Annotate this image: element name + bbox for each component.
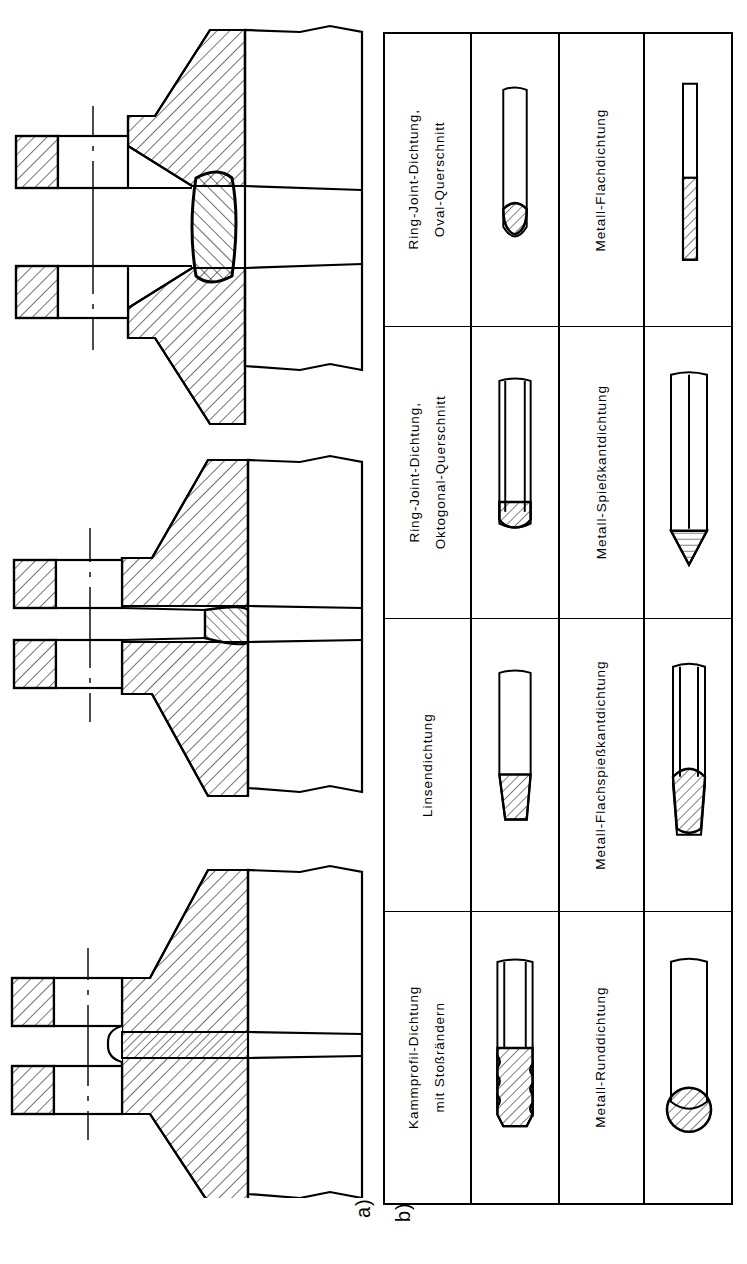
gasket-label-line1: Linsendichtung [419, 713, 434, 816]
gasket-label-line1: Kammprofil-Dichtung [406, 986, 421, 1129]
pointed-edge-gasket-shape [645, 327, 733, 619]
table-column-shapes-left [645, 34, 733, 1203]
gasket-label: Metall-Runddichtung [588, 987, 614, 1128]
gasket-label-line1: Ring-Joint-Dichtung, [406, 110, 421, 250]
gasket-label: Metall-Flachspießkantdichtung [588, 660, 614, 869]
gasket-label-line2: Oval-Querschnitt [428, 110, 454, 250]
table-column-labels-right: Ring-Joint-Dichtung, Oval-Querschnitt Ri… [385, 34, 472, 1203]
table-cell-shape [645, 619, 733, 912]
gasket-label-line1: Metall-Flachdichtung [593, 108, 608, 251]
lens-gasket-shape [472, 619, 558, 911]
table-cell-shape [472, 912, 558, 1204]
technical-figure: Ring-Joint-Dichtung, Oval-Querschnitt Ri… [0, 0, 747, 1264]
part-b-gasket-table: Ring-Joint-Dichtung, Oval-Querschnitt Ri… [383, 32, 733, 1205]
table-cell-label: Metall-Flachdichtung [560, 34, 643, 327]
gasket-label-line1: Metall-Runddichtung [593, 987, 608, 1128]
table-cell-label: Kammprofil-Dichtung mit Stoßrändern [385, 912, 470, 1204]
gasket-label: Ring-Joint-Dichtung, Oktogonal-Querschni… [401, 395, 454, 549]
table-cell-shape [645, 912, 733, 1204]
flat-pointed-edge-gasket-shape [645, 619, 733, 911]
gasket-label: Linsendichtung [414, 713, 440, 816]
table-cell-label: Ring-Joint-Dichtung, Oktogonal-Querschni… [385, 327, 470, 620]
table-cell-label: Ring-Joint-Dichtung, Oval-Querschnitt [385, 34, 470, 327]
gasket-label-line2: Oktogonal-Querschnitt [428, 395, 454, 549]
table-cell-shape [472, 619, 558, 912]
table-cell-shape [645, 34, 733, 327]
gasket-label: Kammprofil-Dichtung mit Stoßrändern [401, 986, 454, 1129]
table-cell-shape [645, 327, 733, 620]
kammprofil-gasket-shape [472, 912, 558, 1204]
gasket-label: Ring-Joint-Dichtung, Oval-Querschnitt [401, 110, 454, 250]
table-cell-shape [472, 34, 558, 327]
table-cell-label: Metall-Spießkantdichtung [560, 327, 643, 620]
flange-flat-gasket-drawing [0, 818, 372, 1198]
gasket-label-line2: mit Stoßrändern [428, 986, 454, 1129]
table-cell-label: Metall-Runddichtung [560, 912, 643, 1204]
table-column-shapes-right [472, 34, 560, 1203]
gasket-label-line1: Ring-Joint-Dichtung, [406, 402, 421, 542]
table-cell-shape [472, 327, 558, 620]
gasket-label: Metall-Spießkantdichtung [588, 385, 614, 559]
caption-part-a: a) [352, 1198, 375, 1218]
gasket-label: Metall-Flachdichtung [588, 108, 614, 251]
octagonal-ring-joint-gasket-shape [472, 327, 558, 619]
table-cell-label: Linsendichtung [385, 619, 470, 912]
flat-strip-gasket-shape [645, 34, 733, 326]
flange-lens-gasket-drawing [0, 430, 372, 822]
oval-ring-joint-gasket-shape [472, 34, 558, 326]
round-gasket-shape [645, 912, 733, 1204]
table-cell-label: Metall-Flachspießkantdichtung [560, 619, 643, 912]
flange-ring-joint-oval-drawing [0, 18, 372, 436]
gasket-label-line1: Metall-Spießkantdichtung [593, 385, 608, 559]
part-a-flange-drawings [0, 0, 372, 1264]
table-column-labels-left: Metall-Flachdichtung Metall-Spießkantdic… [560, 34, 645, 1203]
gasket-label-line1: Metall-Flachspießkantdichtung [593, 660, 608, 869]
caption-part-b: b) [392, 1202, 415, 1222]
